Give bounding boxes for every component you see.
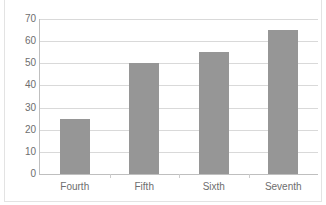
- x-tick-label-sixth: Sixth: [179, 181, 249, 193]
- bar-fourth[interactable]: [60, 119, 90, 174]
- clipped-chart-title: [5, 0, 321, 3]
- x-axis-tick-3: [249, 174, 250, 178]
- gridline-70: [40, 19, 318, 20]
- x-axis-tick-2: [179, 174, 180, 178]
- y-tick-label-60: 60: [2, 36, 36, 46]
- bar-fifth[interactable]: [129, 63, 159, 174]
- y-tick-label-70: 70: [2, 14, 36, 24]
- y-tick-label-0: 0: [2, 169, 36, 179]
- x-tick-label-fourth: Fourth: [40, 181, 110, 193]
- y-tick-label-20: 20: [2, 125, 36, 135]
- plot-area: [40, 19, 318, 174]
- bar-seventh[interactable]: [268, 30, 298, 174]
- y-tick-label-30: 30: [2, 103, 36, 113]
- y-tick-label-40: 40: [2, 80, 36, 90]
- x-axis-tick-1: [110, 174, 111, 178]
- bar-sixth[interactable]: [199, 52, 229, 174]
- y-tick-label-10: 10: [2, 147, 36, 157]
- y-tick-label-50: 50: [2, 58, 36, 68]
- bar-chart-figure: 010203040506070 FourthFifthSixthSeventh: [0, 0, 326, 205]
- y-axis-tick-labels: 010203040506070: [0, 19, 36, 174]
- x-tick-label-fifth: Fifth: [110, 181, 180, 193]
- x-tick-label-seventh: Seventh: [249, 181, 319, 193]
